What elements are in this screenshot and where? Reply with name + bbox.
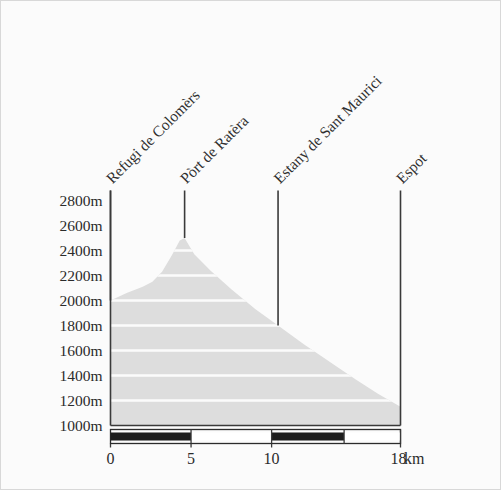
- x-axis-tick-labels: 051018: [107, 444, 407, 467]
- y-tick-label: 1800m: [59, 317, 102, 334]
- poi-label: Espot: [393, 149, 430, 186]
- scale-bar-segment-empty: [191, 433, 272, 441]
- x-axis-unit-label: km: [404, 450, 425, 467]
- y-tick-label: 2800m: [59, 192, 102, 209]
- y-tick-label: 2600m: [59, 217, 102, 234]
- y-tick-label: 1200m: [59, 392, 102, 409]
- y-tick-label: 2400m: [59, 242, 102, 259]
- terrain-area-group: [111, 238, 401, 426]
- y-tick-label: 1600m: [59, 342, 102, 359]
- x-tick-label: 0: [107, 450, 115, 467]
- x-tick-label: 5: [187, 450, 195, 467]
- x-tick-label: 10: [264, 450, 280, 467]
- scale-bar-segment-filled: [111, 433, 192, 441]
- scale-bar-segment-empty: [344, 433, 400, 441]
- scale-bar: [111, 430, 401, 444]
- y-tick-label: 1000m: [59, 417, 102, 434]
- poi-label: Estany de Sant Maurici: [270, 72, 385, 187]
- poi-label: Pòrt de Ratèra: [177, 112, 252, 187]
- scale-bar-segment-filled: [272, 433, 345, 441]
- y-axis-tick-labels: 1000m1200m1400m1600m1800m2000m2200m2400m…: [59, 192, 102, 434]
- elevation-profile-figure: 1000m1200m1400m1600m1800m2000m2200m2400m…: [0, 0, 501, 490]
- y-tick-label: 2200m: [59, 267, 102, 284]
- elevation-chart: 1000m1200m1400m1600m1800m2000m2200m2400m…: [1, 1, 501, 490]
- y-tick-label: 1400m: [59, 367, 102, 384]
- poi-labels: Refugi de ColomèrsPòrt de RatèraEstany d…: [103, 72, 430, 187]
- y-tick-label: 2000m: [59, 292, 102, 309]
